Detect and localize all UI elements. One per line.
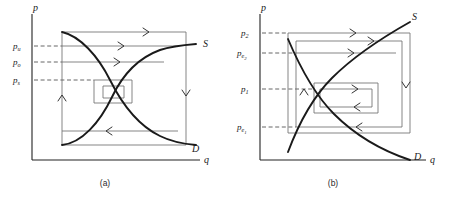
demand-curve-b xyxy=(288,39,410,160)
supply-curve-b xyxy=(288,22,410,152)
demand-label-a: D xyxy=(191,143,200,154)
demand-curve-a xyxy=(62,32,196,145)
panel-a-converging-cobweb: p q pu po ps xyxy=(0,0,228,199)
panel-b-diverging-cobweb: p q p2 pe2 p1 pe1 xyxy=(228,0,455,199)
price-tick-label-b-1: p2 xyxy=(240,28,249,39)
price-tick-label-b-3: p1 xyxy=(240,84,249,95)
price-tick-label-a-1: pu xyxy=(12,41,21,52)
cobweb-arrowheads-b xyxy=(300,29,410,131)
cobweb-arrowheads-a xyxy=(58,28,190,135)
supply-label-a: S xyxy=(203,38,208,49)
x-axis-label-b: q xyxy=(430,154,435,165)
panel-a-caption: (a) xyxy=(85,178,125,188)
x-axis-label-a: q xyxy=(204,154,209,165)
supply-label-b: S xyxy=(412,11,417,22)
panel-b-caption: (b) xyxy=(313,178,353,188)
supply-curve-a xyxy=(62,44,196,145)
cobweb-web-b xyxy=(288,33,410,133)
price-tick-label-b-4: pe1 xyxy=(236,122,247,135)
price-tick-label-b-2: pe2 xyxy=(236,48,247,61)
y-axis-label-b: p xyxy=(260,2,266,13)
figure-container: p q pu po ps xyxy=(0,0,455,199)
price-tick-label-a-3: ps xyxy=(12,75,21,86)
y-axis-label-a: p xyxy=(32,2,38,13)
price-tick-label-a-2: po xyxy=(12,57,21,68)
demand-label-b: D xyxy=(413,151,422,162)
cobweb-web-a xyxy=(62,32,186,145)
